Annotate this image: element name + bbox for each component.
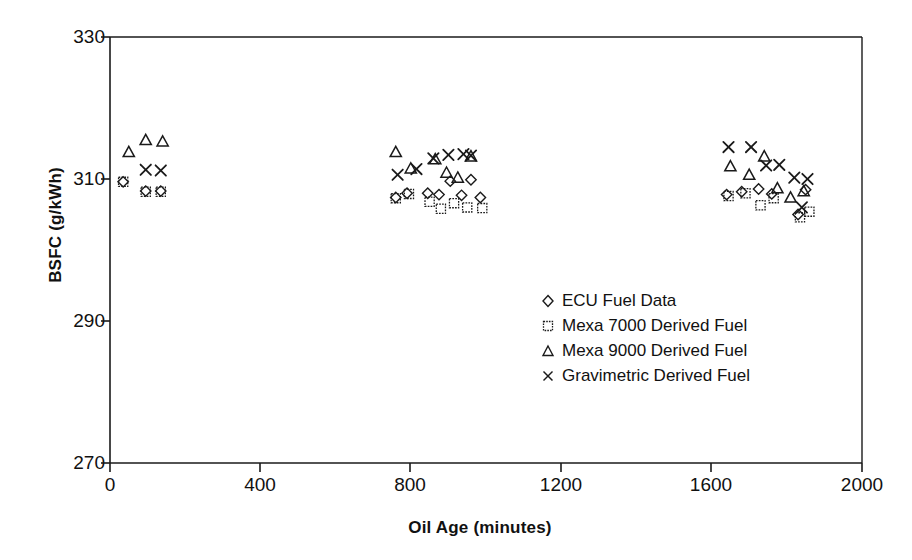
axis-lines bbox=[101, 37, 862, 472]
diamond-marker-icon bbox=[536, 290, 560, 312]
cross-marker-icon bbox=[536, 365, 560, 387]
series-square bbox=[119, 177, 814, 222]
legend-label: Mexa 7000 Derived Fuel bbox=[560, 316, 747, 336]
legend-label: ECU Fuel Data bbox=[560, 291, 676, 311]
data-markers bbox=[118, 134, 814, 222]
triangle-marker-icon bbox=[536, 340, 560, 362]
legend-label: Mexa 9000 Derived Fuel bbox=[560, 341, 747, 361]
legend-item-ecu-fuel-data: ECU Fuel Data bbox=[536, 288, 750, 313]
plot-area bbox=[0, 0, 912, 560]
series-cross bbox=[141, 142, 813, 213]
legend-item-mexa-9000-derived-fuel: Mexa 9000 Derived Fuel bbox=[536, 338, 750, 363]
square-marker-icon bbox=[536, 315, 560, 337]
legend-item-mexa-7000-derived-fuel: Mexa 7000 Derived Fuel bbox=[536, 313, 750, 338]
legend-item-gravimetric-derived-fuel: Gravimetric Derived Fuel bbox=[536, 363, 750, 388]
chart-figure: BSFC (g/kWh) Oil Age (minutes) 330 310 2… bbox=[0, 0, 912, 560]
chart-legend: ECU Fuel Data Mexa 7000 Derived Fuel Mex… bbox=[536, 288, 750, 388]
series-diamond bbox=[118, 175, 811, 220]
series-triangle bbox=[123, 134, 809, 202]
legend-label: Gravimetric Derived Fuel bbox=[560, 366, 750, 386]
